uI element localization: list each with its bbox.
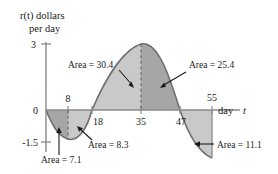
x-tick-label-35: 35: [136, 116, 146, 127]
region-area-30-4: [92, 44, 141, 110]
label-area-7-1: Area = 7.1: [41, 155, 82, 165]
label-area-25-4: Area = 25.4: [189, 60, 234, 70]
x-axis-label-var: t: [243, 105, 247, 116]
y-axis-label-line2: per day: [29, 23, 61, 34]
x-tick-label-18: 18: [93, 116, 103, 127]
label-area-11-1: Area = 11.1: [217, 140, 262, 150]
x-axis-label-prefix: day: [218, 105, 234, 116]
label-area-8-3: Area = 8.3: [88, 140, 129, 150]
y-tick-label-minus-1-5: -1.5: [22, 137, 38, 148]
region-area-7-1: [46, 110, 68, 139]
y-tick-label-0: 0: [33, 105, 38, 116]
y-tick-label-3: 3: [31, 39, 36, 50]
x-tick-label-47: 47: [176, 116, 186, 127]
x-tick-label-55: 55: [207, 92, 217, 103]
label-area-30-4: Area = 30.4: [68, 60, 113, 70]
region-area-25-4: [141, 44, 180, 110]
area-under-rate-curve-figure: r(t) dollars per day day t 3 0 -1.5 8 18…: [0, 0, 278, 174]
y-axis-label-line1: r(t) dollars: [20, 10, 65, 22]
x-tick-label-8: 8: [66, 93, 71, 104]
